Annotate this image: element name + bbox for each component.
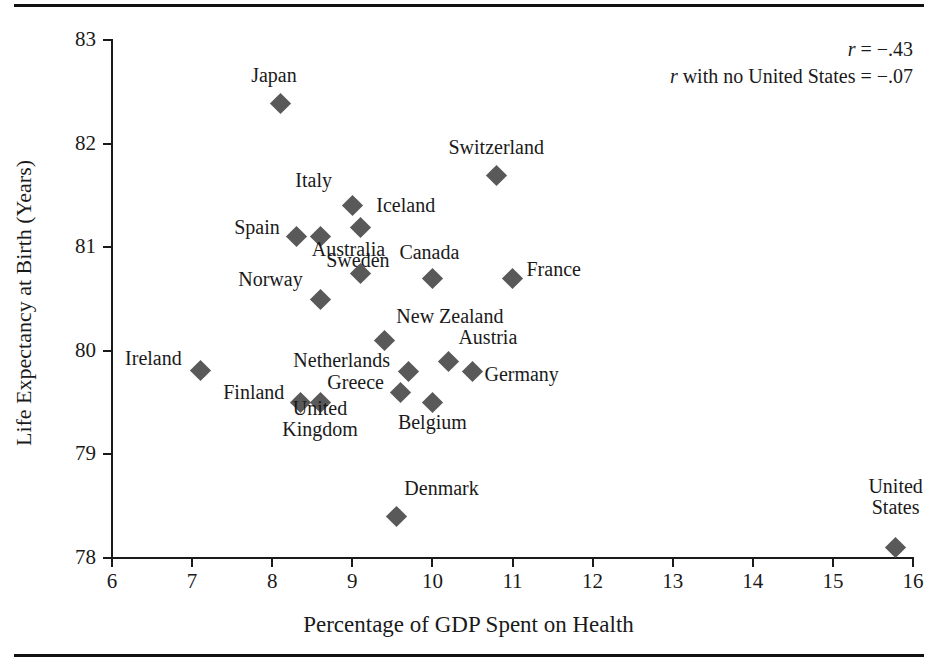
x-tick-label: 8 bbox=[242, 570, 302, 592]
y-tick-mark bbox=[103, 39, 112, 41]
data-point-label: Denmark bbox=[404, 478, 478, 499]
x-axis-title: Percentage of GDP Spent on Health bbox=[0, 612, 937, 638]
data-point-label: Germany bbox=[484, 364, 558, 385]
data-point-label: Iceland bbox=[376, 195, 435, 216]
x-tick-mark bbox=[431, 558, 433, 567]
bottom-rule bbox=[14, 654, 924, 657]
x-tick-mark bbox=[111, 558, 113, 567]
x-tick-mark bbox=[832, 558, 834, 567]
x-tick-mark bbox=[752, 558, 754, 567]
y-tick-label: 83 bbox=[50, 29, 96, 50]
top-rule bbox=[14, 4, 924, 7]
x-tick-label: 7 bbox=[162, 570, 222, 592]
data-point-label: United Kingdom bbox=[282, 398, 358, 440]
x-tick-label: 9 bbox=[322, 570, 382, 592]
data-point-label: Norway bbox=[238, 269, 302, 290]
plot-area bbox=[112, 40, 913, 558]
data-point-label: Switzerland bbox=[448, 137, 544, 158]
y-axis-title: Life Expectancy at Birth (Years) bbox=[11, 0, 37, 613]
data-point-label: France bbox=[527, 259, 581, 280]
x-tick-label: 14 bbox=[723, 570, 783, 592]
data-point-label: United States bbox=[868, 476, 922, 518]
data-point-label: New Zealand bbox=[396, 306, 503, 327]
x-tick-mark bbox=[512, 558, 514, 567]
x-tick-mark bbox=[351, 558, 353, 567]
scatter-plot-figure: r = −.43 r with no United States = −.07 … bbox=[0, 0, 937, 669]
x-tick-label: 6 bbox=[82, 570, 142, 592]
x-tick-label: 11 bbox=[483, 570, 543, 592]
data-point-label: Greece bbox=[327, 372, 384, 393]
y-tick-label: 81 bbox=[50, 236, 96, 257]
y-tick-label: 78 bbox=[50, 547, 96, 568]
data-point-label: Australia bbox=[312, 239, 385, 260]
y-tick-mark bbox=[103, 453, 112, 455]
x-tick-mark bbox=[592, 558, 594, 567]
x-tick-mark bbox=[271, 558, 273, 567]
data-point-label: Japan bbox=[251, 65, 297, 86]
data-point-label: Finland bbox=[223, 382, 284, 403]
x-tick-label: 15 bbox=[803, 570, 863, 592]
x-tick-mark bbox=[672, 558, 674, 567]
data-point-label: Spain bbox=[234, 217, 280, 238]
y-tick-label: 82 bbox=[50, 133, 96, 154]
y-tick-label: 79 bbox=[50, 443, 96, 464]
data-point-label: Italy bbox=[295, 170, 332, 191]
x-tick-label: 16 bbox=[883, 570, 937, 592]
data-point-label: Canada bbox=[399, 242, 459, 263]
y-tick-mark bbox=[103, 246, 112, 248]
x-tick-mark bbox=[191, 558, 193, 567]
x-tick-mark bbox=[912, 558, 914, 567]
x-tick-label: 10 bbox=[402, 570, 462, 592]
x-tick-label: 12 bbox=[563, 570, 623, 592]
data-point-label: Austria bbox=[458, 327, 517, 348]
y-tick-label: 80 bbox=[50, 340, 96, 361]
x-tick-label: 13 bbox=[643, 570, 703, 592]
data-point-label: Ireland bbox=[125, 348, 182, 369]
data-point-label: Netherlands bbox=[293, 350, 390, 371]
data-point-label: Belgium bbox=[398, 412, 467, 433]
y-tick-mark bbox=[103, 143, 112, 145]
y-tick-mark bbox=[103, 350, 112, 352]
